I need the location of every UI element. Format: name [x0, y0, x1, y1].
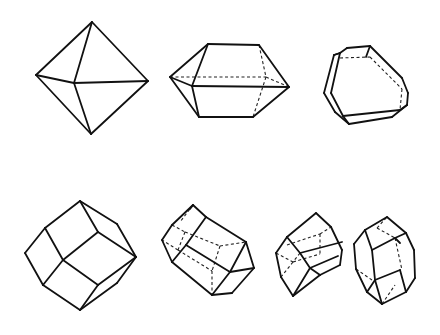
visible-edge	[407, 93, 408, 105]
crystal-forms-figure	[0, 0, 440, 335]
visible-edge	[208, 44, 259, 45]
visible-edge	[192, 86, 289, 87]
visible-edge	[414, 250, 415, 278]
